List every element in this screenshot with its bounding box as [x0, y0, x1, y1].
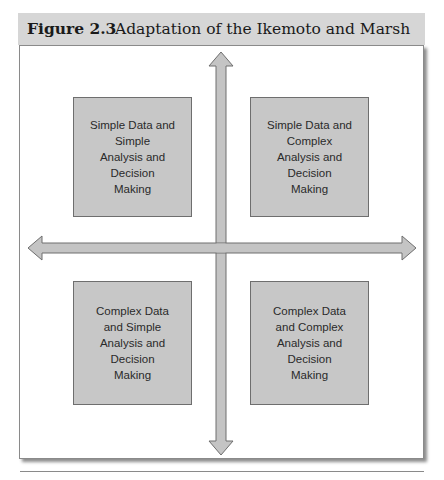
quadrant-text-line: Making: [96, 367, 169, 383]
quadrant-text-line: and Simple: [96, 319, 169, 335]
quadrant-text-line: Simple Data and: [267, 117, 352, 133]
quadrant-text-line: Complex Data: [273, 303, 346, 319]
quadrant-text-line: Making: [90, 181, 175, 197]
quadrant-complex-data-simple-analysis: Complex Data and Simple Analysis and Dec…: [73, 281, 192, 405]
quadrant-complex-data-complex-analysis: Complex Data and Complex Analysis and De…: [250, 281, 369, 405]
quadrant-text-line: Analysis and: [90, 149, 175, 165]
quadrant-text-line: Making: [273, 367, 346, 383]
quadrant-simple-data-simple-analysis: Simple Data and Simple Analysis and Deci…: [73, 97, 192, 217]
quadrant-text-line: Decision: [273, 351, 346, 367]
quadrant-text-line: Complex: [267, 133, 352, 149]
axes-arrows: [0, 0, 444, 480]
quadrant-text-line: Simple Data and: [90, 117, 175, 133]
quadrant-text-line: Decision: [267, 165, 352, 181]
quadrant-text-line: Making: [267, 181, 352, 197]
quadrant-text-line: Analysis and: [96, 335, 169, 351]
quadrant-text-line: Decision: [96, 351, 169, 367]
quadrant-text-line: Complex Data: [96, 303, 169, 319]
quadrant-text-line: Simple: [90, 133, 175, 149]
quadrant-text-line: Analysis and: [273, 335, 346, 351]
bottom-divider: [20, 471, 424, 472]
quadrant-simple-data-complex-analysis: Simple Data and Complex Analysis and Dec…: [250, 97, 369, 217]
quadrant-text-line: Analysis and: [267, 149, 352, 165]
quadrant-text-line: and Complex: [273, 319, 346, 335]
quadrant-text-line: Decision: [90, 165, 175, 181]
